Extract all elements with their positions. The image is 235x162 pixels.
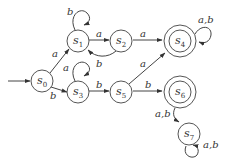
edge-label-s1-s2: a [96,28,102,39]
state-s5: s5 [110,81,132,103]
state-s6: s6 [164,76,196,108]
edge-label-s5-s4: a [140,58,146,69]
edge-label-s0-s3: b [50,90,56,101]
edge-s7-s7 [185,145,198,157]
edge-label-s1-s1: b [67,6,73,17]
edge-label-s3-s3: a [63,62,69,73]
state-s0: s0 [31,70,53,92]
edge-label-s7-s7: a,b [203,139,219,150]
edge-label-s5-s6: b [145,79,151,90]
edge-label-s3-s5: b [96,79,102,90]
state-s4: s4 [164,25,196,57]
edge-s3-s3 [73,62,90,81]
state-diagram: a b b a b a a b a,b a b a,b [0,0,235,162]
edge-label-s2-s4: a [140,28,146,39]
edge-label-s4-s4: a,b [198,14,214,25]
edge-s6-s7 [174,108,179,122]
state-s2: s2 [110,30,132,52]
state-s1: s1 [67,30,89,52]
edge-s4-s4 [195,27,211,42]
state-s7: s7 [178,123,200,145]
edge-label-s0-s1: a [52,48,58,59]
states: s0 s1 s2 s3 s4 s5 s6 s7 [31,25,200,145]
edge-label-s2-s1: b [96,58,102,69]
edge-s1-s1 [73,11,90,30]
edge-s2-s1 [88,50,116,56]
state-s3: s3 [67,81,89,103]
edge-label-s6-s7: a,b [155,108,171,119]
